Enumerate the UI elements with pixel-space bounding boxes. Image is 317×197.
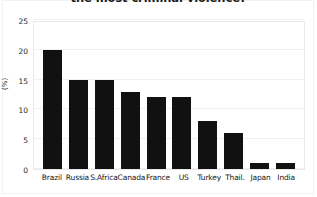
x-axis-tick-label: Brazil [39, 173, 65, 182]
bar-slot [195, 22, 221, 169]
bar-chart-figure: the most criminal violence? (%) 05101520… [0, 0, 317, 197]
bar-slot [272, 22, 298, 169]
bar[interactable] [250, 163, 269, 169]
bar[interactable] [198, 121, 217, 169]
bar-slot [169, 22, 195, 169]
y-axis-tick-label: 0 [2, 166, 28, 175]
y-axis-tick-label: 15 [2, 76, 28, 85]
bar[interactable] [95, 80, 114, 169]
x-axis-tick-label: France [145, 173, 171, 182]
bar-slot [246, 22, 272, 169]
bar-slot [66, 22, 92, 169]
chart-title: the most criminal violence? [0, 0, 317, 11]
bar-slot [40, 22, 66, 169]
bar-slot [92, 22, 118, 169]
bar-series [34, 22, 304, 169]
bar-slot [143, 22, 169, 169]
bar[interactable] [69, 80, 88, 169]
bar[interactable] [121, 92, 140, 169]
x-axis-tick-label: S.Africa [90, 173, 117, 182]
x-axis-tick-label: India [273, 173, 299, 182]
bar[interactable] [147, 97, 166, 169]
bar[interactable] [172, 97, 191, 169]
y-axis-tick-label: 5 [2, 136, 28, 145]
x-axis-tick-label: Russia [65, 173, 91, 182]
bar[interactable] [224, 133, 243, 169]
bar[interactable] [276, 163, 295, 169]
gridline [34, 19, 304, 20]
y-axis-tick-label: 25 [2, 17, 28, 26]
x-axis-tick-label: Japan [248, 173, 274, 182]
plot-area [33, 21, 305, 170]
x-axis-tick-label: US [171, 173, 197, 182]
x-axis-tick-label: Thail. [222, 173, 248, 182]
x-axis-tick-label: Turkey [196, 173, 222, 182]
bar-slot [221, 22, 247, 169]
bar[interactable] [43, 50, 62, 169]
x-axis-tick-label: Canada [118, 173, 146, 182]
y-axis-tick-label: 20 [2, 46, 28, 55]
x-axis-tick-labels: BrazilRussiaS.AfricaCanadaFranceUSTurkey… [33, 173, 305, 182]
y-axis-tick-label: 10 [2, 106, 28, 115]
bar-slot [117, 22, 143, 169]
